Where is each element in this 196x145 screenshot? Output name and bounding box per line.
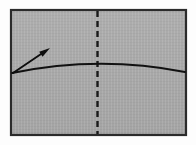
figure-root xyxy=(0,0,196,145)
fold-diagram-svg xyxy=(0,0,196,145)
